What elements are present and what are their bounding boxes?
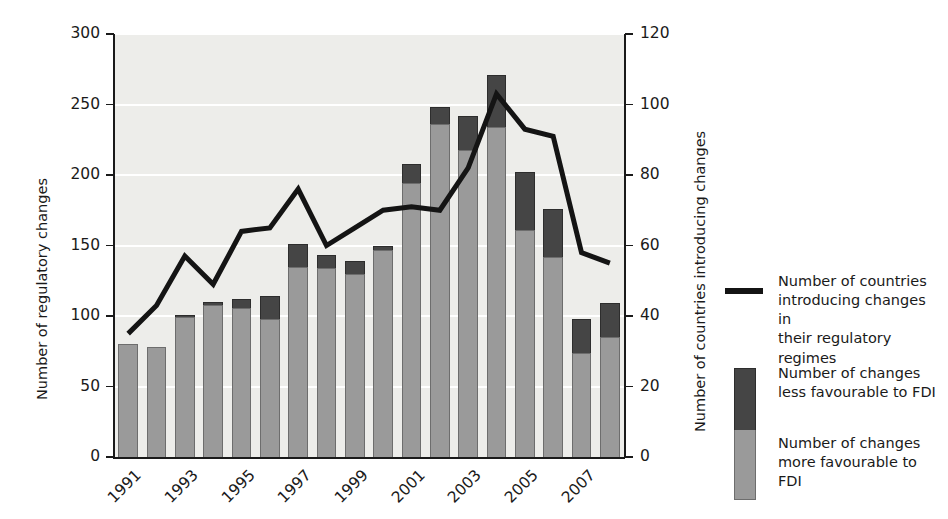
plot-area bbox=[114, 34, 624, 457]
legend-swatch-more-favourable-icon bbox=[734, 430, 756, 500]
left-axis-tick bbox=[106, 386, 114, 388]
x-axis-tick-label: 1999 bbox=[319, 466, 371, 518]
left-axis-tick bbox=[106, 245, 114, 247]
right-axis-tick bbox=[625, 456, 633, 458]
right-axis-tick bbox=[625, 174, 633, 176]
left-axis-tick bbox=[106, 315, 114, 317]
right-axis-title: Number of countries introducing changes bbox=[692, 131, 708, 432]
right-axis-tick bbox=[625, 104, 633, 106]
x-axis-tick-label: 1995 bbox=[206, 466, 258, 518]
left-axis-tick bbox=[106, 33, 114, 35]
right-axis-tick bbox=[625, 245, 633, 247]
left-axis-tick bbox=[106, 174, 114, 176]
legend-item-label: Number of changesmore favourable to FDI bbox=[778, 434, 940, 491]
legend-label-line: more favourable to FDI bbox=[778, 453, 940, 491]
legend-label-line: their regulatory regimes bbox=[778, 329, 940, 367]
x-axis-tick-label: 2005 bbox=[489, 466, 541, 518]
legend-item-label: Number of countriesintroducing changes i… bbox=[778, 272, 940, 368]
right-axis-tick-label: 60 bbox=[640, 238, 700, 254]
x-axis-tick-label: 1991 bbox=[93, 466, 145, 518]
line-path-countries bbox=[128, 94, 610, 334]
legend-item-label: Number of changesless favourable to FDI bbox=[778, 364, 936, 402]
legend-swatch-less-favourable-icon bbox=[734, 368, 756, 438]
right-axis-tick-label: 0 bbox=[640, 449, 700, 465]
left-axis-title: Number of regulatory changes bbox=[34, 178, 50, 400]
x-axis-tick-label: 1993 bbox=[149, 466, 201, 518]
x-axis-tick-label: 2007 bbox=[546, 466, 598, 518]
x-axis-tick-label: 2001 bbox=[376, 466, 428, 518]
left-axis-tick-label: 300 bbox=[40, 26, 100, 42]
right-axis-tick-label: 120 bbox=[640, 26, 700, 42]
right-axis-tick-label: 80 bbox=[640, 167, 700, 183]
legend-line-marker-icon bbox=[725, 288, 763, 294]
x-axis-line bbox=[113, 457, 625, 459]
left-axis-tick bbox=[106, 104, 114, 106]
x-axis-tick-label: 1997 bbox=[263, 466, 315, 518]
right-axis-tick-label: 20 bbox=[640, 379, 700, 395]
right-axis-tick bbox=[625, 33, 633, 35]
x-axis-tick-label: 2003 bbox=[433, 466, 485, 518]
legend-label-line: introducing changes in bbox=[778, 291, 940, 329]
legend-label-line: Number of countries bbox=[778, 272, 940, 291]
right-axis-tick bbox=[625, 315, 633, 317]
line-series-countries bbox=[114, 34, 624, 457]
chart-figure: 050100150200250300 Number of regulatory … bbox=[0, 0, 948, 519]
left-axis-tick-label: 250 bbox=[40, 97, 100, 113]
legend-label-line: Number of changes bbox=[778, 434, 940, 453]
left-axis-tick-label: 0 bbox=[40, 449, 100, 465]
right-axis-tick-label: 100 bbox=[640, 97, 700, 113]
right-axis-tick bbox=[625, 386, 633, 388]
legend-label-line: Number of changes bbox=[778, 364, 936, 383]
legend-label-line: less favourable to FDI bbox=[778, 383, 936, 402]
right-axis-tick-label: 40 bbox=[640, 308, 700, 324]
